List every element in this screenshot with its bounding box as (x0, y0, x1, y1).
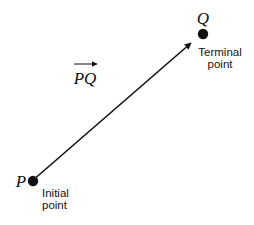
diagram-canvas: Q Terminal point P Initial point PQ (0, 0, 254, 225)
initial-point-caption-line1: Initial (42, 187, 69, 199)
vector-label: PQ (73, 69, 97, 88)
terminal-point-name: Q (197, 9, 209, 28)
initial-point-name: P (15, 172, 26, 191)
terminal-point-caption-line1: Terminal (198, 46, 241, 58)
vector-arrow (32, 43, 191, 181)
initial-point-caption-line2: point (42, 199, 68, 211)
terminal-point-dot (198, 29, 208, 39)
vector-diagram: Q Terminal point P Initial point PQ (0, 0, 254, 225)
terminal-point-caption-line2: point (208, 58, 234, 70)
initial-point-dot (28, 176, 38, 186)
